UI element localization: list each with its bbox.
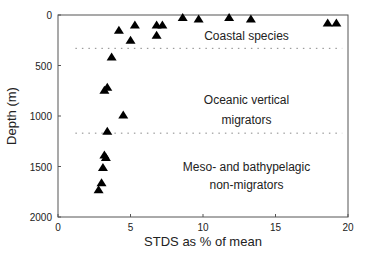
x-axis-label: STDS as % of mean	[144, 234, 262, 249]
y-tick-label: 1000	[30, 111, 53, 122]
y-tick-label: 500	[35, 61, 52, 72]
triangle-marker	[94, 185, 104, 193]
scatter-chart: 05101520 0500100015002000 Coastal specie…	[0, 0, 371, 257]
x-tick-label: 20	[342, 222, 354, 233]
triangle-marker	[130, 21, 140, 29]
region-label: Meso- and bathypelagic	[183, 160, 310, 174]
triangle-marker	[331, 19, 341, 27]
x-tick-label: 10	[197, 222, 209, 233]
triangle-marker	[98, 163, 108, 171]
region-label: non-migrators	[209, 178, 283, 192]
annotations: Coastal speciesOceanic verticalmigrators…	[183, 29, 310, 191]
triangle-marker	[194, 15, 204, 23]
y-axis-label: Depth (m)	[4, 87, 19, 145]
plot-frame	[58, 15, 348, 217]
triangle-marker	[246, 15, 256, 23]
x-tick-label: 5	[128, 222, 134, 233]
x-tick-label: 0	[55, 222, 61, 233]
triangle-marker	[224, 13, 234, 21]
triangle-marker	[97, 178, 107, 186]
x-tick-label: 15	[270, 222, 282, 233]
y-tick-label: 1500	[30, 162, 53, 173]
region-label: Oceanic vertical	[204, 93, 289, 107]
y-tick-label: 0	[46, 10, 52, 21]
y-axis: 0500100015002000	[30, 10, 61, 223]
reference-lines	[75, 48, 342, 133]
triangle-marker	[178, 13, 188, 21]
triangle-marker	[152, 31, 162, 39]
triangle-marker	[126, 36, 136, 44]
region-label: Coastal species	[204, 29, 289, 43]
triangle-marker	[102, 127, 112, 135]
y-tick-label: 2000	[30, 212, 53, 223]
triangle-marker	[114, 26, 124, 34]
triangle-marker	[107, 52, 117, 60]
triangle-marker	[323, 19, 333, 27]
triangle-marker	[118, 110, 128, 118]
region-label: migrators	[221, 113, 271, 127]
